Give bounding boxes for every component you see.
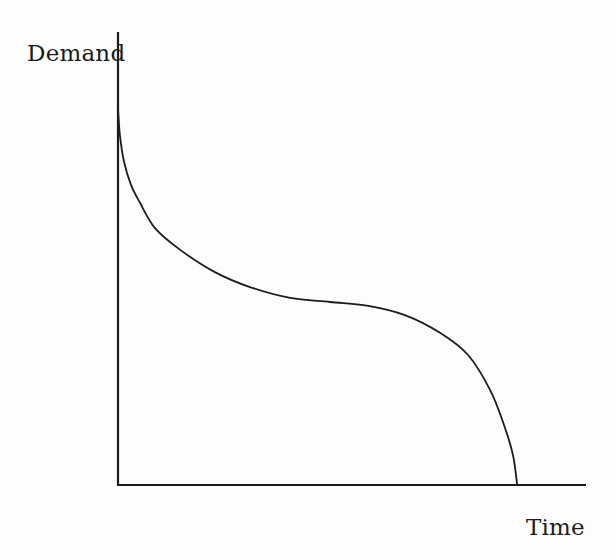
- x-axis-label: Time: [526, 516, 585, 539]
- plot-area: [0, 0, 616, 559]
- y-axis-label: Demand: [27, 42, 125, 65]
- demand-time-figure: Demand Time: [0, 0, 616, 559]
- demand-curve: [118, 108, 517, 485]
